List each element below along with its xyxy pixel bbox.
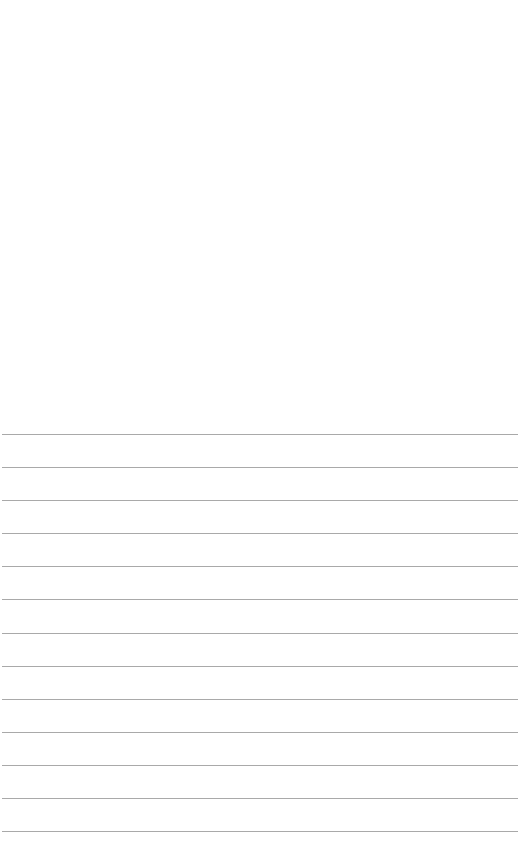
ruled-line [2, 798, 518, 799]
lined-paper-page [0, 0, 521, 866]
ruled-line [2, 699, 518, 700]
ruled-line [2, 765, 518, 766]
ruled-line [2, 533, 518, 534]
ruled-line [2, 500, 518, 501]
ruled-line [2, 732, 518, 733]
ruled-line [2, 434, 518, 435]
ruled-line [2, 633, 518, 634]
ruled-line [2, 831, 518, 832]
ruled-lines-area [0, 0, 521, 866]
ruled-line [2, 666, 518, 667]
ruled-line [2, 467, 518, 468]
ruled-line [2, 599, 518, 600]
ruled-line [2, 566, 518, 567]
